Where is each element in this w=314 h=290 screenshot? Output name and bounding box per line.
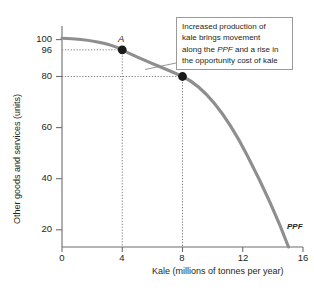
callout-line-2: kale brings movement: [182, 32, 288, 43]
x-tick-label-8: 8: [168, 252, 196, 263]
x-tick-label-0: 0: [48, 252, 76, 263]
x-tick-label-12: 12: [229, 252, 257, 263]
x-axis-title: Kale (millions of tonnes per year): [152, 266, 284, 276]
annotation-callout: Increased production of kale brings move…: [176, 17, 293, 70]
x-tick-label-4: 4: [108, 252, 136, 263]
ppf-chart-figure: 100 96 80 60 40 20 0 4 8 12 16 Other goo…: [0, 0, 314, 290]
callout-line-3c: and a rise in: [233, 45, 279, 54]
data-point-a: [118, 45, 127, 54]
y-tick-marks: [56, 40, 62, 230]
guide-lines: [62, 50, 183, 247]
y-tick-label-96: 96: [10, 44, 52, 55]
data-point-b: [178, 72, 187, 81]
callout-line-3a: along the: [182, 45, 217, 54]
y-tick-label-80: 80: [10, 70, 52, 81]
callout-line-1: Increased production of: [182, 21, 288, 32]
y-tick-label-100: 100: [10, 33, 52, 44]
ppf-curve-label: PPF: [287, 222, 303, 231]
y-tick-label-20: 20: [10, 223, 52, 234]
callout-line-4: the opportunity cost of kale: [182, 55, 288, 66]
callout-ppf-term: PPF: [217, 45, 233, 54]
point-label-a: A: [118, 33, 124, 44]
callout-line-3: along the PPF and a rise in: [182, 44, 288, 55]
x-tick-label-16: 16: [289, 252, 314, 263]
y-axis-title: Other goods and services (units): [12, 94, 22, 224]
